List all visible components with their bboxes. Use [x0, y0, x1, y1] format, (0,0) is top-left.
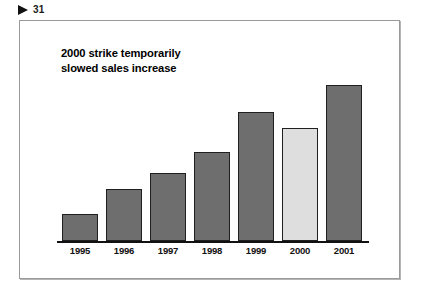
bar-column-1997 [150, 66, 186, 241]
page-number: 31 [33, 3, 45, 16]
x-label-2001: 2001 [326, 245, 362, 257]
x-label-1995: 1995 [62, 245, 98, 257]
bar-column-1999 [238, 66, 274, 241]
page-header: 31 [0, 0, 423, 20]
bar-2000[interactable] [282, 128, 318, 241]
bar-1998[interactable] [194, 152, 230, 241]
bar-1996[interactable] [106, 189, 142, 241]
bar-series [62, 66, 364, 241]
bar-1999[interactable] [238, 112, 274, 241]
bar-column-1995 [62, 66, 98, 241]
x-axis-labels: 1995 1996 1997 1998 1999 2000 2001 [62, 245, 364, 257]
bar-1995[interactable] [62, 214, 98, 241]
play-triangle-icon [18, 5, 28, 15]
bar-column-2001 [326, 66, 362, 241]
x-label-1998: 1998 [194, 245, 230, 257]
bar-column-1998 [194, 66, 230, 241]
bar-2001[interactable] [326, 85, 362, 241]
x-axis-line [57, 241, 369, 243]
chart-panel: 2000 strike temporarily slowed sales inc… [19, 20, 400, 279]
chart-title-line-1: 2000 strike temporarily [61, 46, 341, 61]
bar-1997[interactable] [150, 173, 186, 241]
x-label-2000: 2000 [282, 245, 318, 257]
bar-column-1996 [106, 66, 142, 241]
bar-column-2000 [282, 66, 318, 241]
x-label-1996: 1996 [106, 245, 142, 257]
x-label-1999: 1999 [238, 245, 274, 257]
x-label-1997: 1997 [150, 245, 186, 257]
plot-area [57, 66, 369, 242]
